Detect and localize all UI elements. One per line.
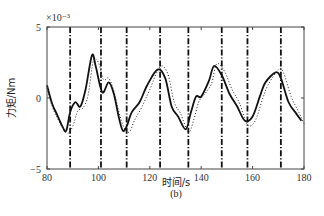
x-tick-label: 160 [245, 172, 260, 183]
y-tick-label: 5 [36, 22, 41, 33]
x-tick-label: 140 [194, 172, 209, 183]
x-tick-label: 100 [91, 172, 106, 183]
x-tick-label: 180 [297, 172, 312, 183]
x-tick-label: 120 [142, 172, 157, 183]
y-multiplier: ×10⁻³ [46, 12, 70, 23]
torque-chart: 80100120140160180 50−5 ×10⁻³ 力矩/Nm 时间/s … [0, 0, 324, 216]
y-axis-label: 力矩/Nm [5, 78, 17, 119]
figure-caption: (b) [170, 188, 182, 200]
y-tick-label: 0 [36, 93, 41, 104]
x-axis-label: 时间/s [162, 176, 191, 188]
x-tick-label: 80 [42, 172, 52, 183]
y-tick-label: −5 [30, 164, 41, 175]
